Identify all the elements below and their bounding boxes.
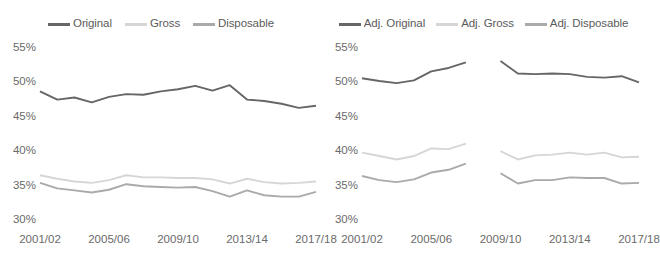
legend-swatch-icon [339, 23, 361, 26]
legend-label: Disposable [218, 18, 274, 30]
x-axis-tick-label: 2005/06 [410, 234, 452, 246]
chart-panel-right: Adj. OriginalAdj. GrossAdj. Disposable 5… [322, 0, 645, 260]
legend-item-original[interactable]: Original [48, 18, 112, 30]
x-axis-tick-label: 2017/18 [618, 234, 660, 246]
legend-item-adj-gross[interactable]: Adj. Gross [436, 18, 514, 30]
legend-label: Adj. Gross [461, 18, 514, 30]
legend-label: Original [73, 18, 112, 30]
legend-label: Gross [150, 18, 180, 30]
series-line-adj-gross [501, 151, 640, 159]
series-line-gross [40, 175, 316, 183]
x-axis-labels-left: 2001/022005/062009/102013/142017/18 [0, 234, 322, 248]
legend-swatch-icon [48, 23, 70, 26]
x-axis-tick-label: 2009/10 [157, 234, 199, 246]
legend-swatch-icon [125, 23, 147, 26]
legend-item-adj-disposable[interactable]: Adj. Disposable [525, 18, 628, 30]
legend-item-adj-original[interactable]: Adj. Original [339, 18, 425, 30]
x-axis-tick-label: 2013/14 [226, 234, 268, 246]
chart-svg [0, 40, 322, 235]
series-line-adj-disposable [501, 173, 640, 183]
x-axis-tick-label: 2005/06 [88, 234, 130, 246]
x-axis-tick-label: 2009/10 [480, 234, 522, 246]
series-line-adj-original [362, 62, 466, 83]
legend-swatch-icon [193, 23, 215, 26]
legend-swatch-icon [436, 23, 458, 26]
chart-legend-right: Adj. OriginalAdj. GrossAdj. Disposable [322, 16, 645, 32]
chart-svg [322, 40, 645, 235]
legend-item-disposable[interactable]: Disposable [193, 18, 274, 30]
x-axis-tick-label: 2001/02 [341, 234, 383, 246]
plot-area-right [322, 40, 645, 235]
series-line-adj-original [501, 61, 640, 82]
legend-label: Adj. Disposable [550, 18, 628, 30]
x-axis-tick-label: 2001/02 [19, 234, 61, 246]
chart-legend-left: OriginalGrossDisposable [0, 16, 322, 32]
series-line-adj-disposable [362, 164, 466, 183]
legend-swatch-icon [525, 23, 547, 26]
series-line-adj-gross [362, 144, 466, 160]
plot-area-left [0, 40, 322, 235]
legend-item-gross[interactable]: Gross [125, 18, 180, 30]
legend-label: Adj. Original [364, 18, 425, 30]
series-line-original [40, 85, 316, 108]
x-axis-labels-right: 2001/022005/062009/102013/142017/18 [322, 234, 645, 248]
series-line-disposable [40, 183, 316, 197]
chart-panel-left: OriginalGrossDisposable 55%50%45%40%35%3… [0, 0, 322, 260]
x-axis-tick-label: 2013/14 [549, 234, 591, 246]
